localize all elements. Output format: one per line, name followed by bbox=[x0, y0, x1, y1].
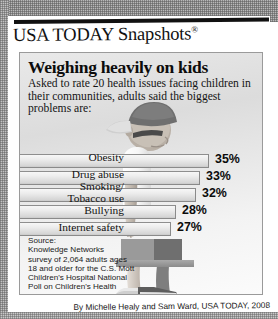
source-line: Poll on Children's Health bbox=[28, 282, 152, 291]
value-label-bullying: 28% bbox=[182, 203, 207, 217]
masthead-title: USA TODAY Snapshots® bbox=[13, 23, 263, 46]
category-label-internet-safety: Internet safety bbox=[59, 222, 124, 234]
masthead-brand: USA TODAY Snapshots bbox=[13, 23, 191, 45]
registered-mark-icon: ® bbox=[191, 24, 198, 34]
usa-today-snapshot: USA TODAY Snapshots® Weighing heavily on… bbox=[0, 0, 278, 319]
chart-panel: Weighing heavily on kids Asked to rate 2… bbox=[19, 52, 263, 295]
source-line: 18 and older for the C.S. Mott bbox=[28, 264, 152, 273]
source-line: survey of 2,064 adults ages bbox=[28, 255, 152, 264]
source-line: Children's Hospital National bbox=[28, 273, 152, 282]
category-label-drug-abuse: Drug abuse bbox=[72, 169, 124, 181]
source-line: Source: bbox=[28, 236, 152, 245]
value-label-smoking: 32% bbox=[202, 186, 227, 200]
category-label-smoking-tobacco: Smoking/ Tobacco use bbox=[68, 181, 124, 204]
source-block: Source: Knowledge Networks survey of 2,0… bbox=[28, 236, 152, 292]
category-label-bullying: Bullying bbox=[84, 205, 124, 217]
category-label-obesity: Obesity bbox=[89, 152, 124, 164]
value-label-obesity: 35% bbox=[215, 152, 240, 166]
value-label-internet-safety: 27% bbox=[177, 220, 202, 234]
newsprint-texture-bottom bbox=[0, 312, 278, 319]
value-label-drug-abuse: 33% bbox=[206, 169, 231, 183]
source-line: Knowledge Networks bbox=[28, 245, 152, 254]
